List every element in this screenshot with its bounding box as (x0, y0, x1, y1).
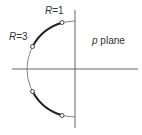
label-r3: R=3 (9, 31, 28, 42)
thick-arc-upper (33, 23, 62, 45)
marker-r1-lower (60, 114, 64, 118)
label-r1: R=1 (45, 5, 64, 16)
p-plane-diagram (0, 0, 142, 135)
plane-label: p plane (92, 35, 125, 46)
thick-arc-lower (33, 93, 62, 115)
plane-label-var: p (92, 35, 98, 46)
marker-r1-upper (60, 21, 64, 25)
plane-label-word: plane (100, 35, 124, 46)
marker-r3-lower (31, 90, 35, 94)
label-r1-eq: =1 (52, 5, 63, 16)
label-r3-eq: =3 (16, 31, 27, 42)
marker-r3-upper (31, 45, 35, 49)
